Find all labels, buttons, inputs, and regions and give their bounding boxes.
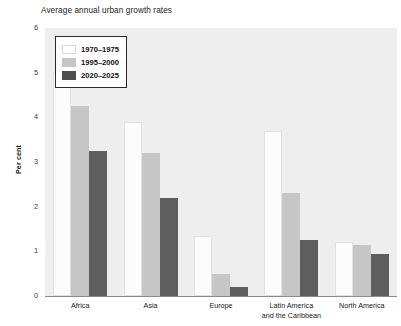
bar-1-0 — [124, 122, 142, 296]
bar-1-1 — [142, 153, 160, 296]
x-label-1: Asia — [115, 301, 185, 311]
x-label-0-line-0: Africa — [45, 301, 115, 311]
legend-entry-1: 1995–2000 — [62, 56, 119, 68]
legend-label-1: 1995–2000 — [81, 58, 119, 67]
bar-4-2 — [371, 254, 389, 296]
y-axis-tick-labels: 0123456 — [10, 0, 38, 326]
legend-label-0: 1970–1975 — [81, 45, 119, 54]
chart-title: Average annual urban growth rates — [41, 6, 172, 15]
chart-figure: Average annual urban growth rates Per ce… — [0, 0, 401, 326]
series-0-swatch — [62, 45, 76, 54]
chart-legend: 1970–19751995–20002020–2025 — [55, 36, 127, 88]
x-label-3-line-1: and the Caribbean — [256, 311, 326, 321]
bar-4-1 — [353, 245, 371, 296]
y-tick-1: 1 — [20, 246, 38, 255]
x-label-0: Africa — [45, 301, 115, 311]
x-label-4-line-0: North America — [327, 301, 397, 311]
bar-4-0 — [335, 242, 353, 296]
bar-3-2 — [300, 240, 318, 296]
x-label-1-line-0: Asia — [115, 301, 185, 311]
x-axis-line — [45, 296, 397, 297]
y-tick-5: 5 — [20, 68, 38, 77]
x-label-3: Latin Americaand the Caribbean — [256, 301, 326, 320]
series-2-swatch — [62, 71, 76, 80]
series-1-swatch — [62, 58, 76, 67]
bar-0-0 — [53, 73, 71, 296]
bar-2-1 — [212, 274, 230, 296]
x-label-2: Europe — [186, 301, 256, 311]
y-tick-0: 0 — [20, 291, 38, 300]
legend-label-2: 2020–2025 — [81, 71, 119, 80]
bar-1-2 — [160, 198, 178, 296]
bar-2-0 — [194, 236, 212, 296]
bar-3-0 — [264, 131, 282, 296]
bar-3-1 — [282, 193, 300, 296]
y-tick-3: 3 — [20, 157, 38, 166]
bar-0-2 — [89, 151, 107, 296]
x-label-2-line-0: Europe — [186, 301, 256, 311]
y-tick-6: 6 — [20, 23, 38, 32]
x-label-3-line-0: Latin America — [256, 301, 326, 311]
legend-entry-2: 2020–2025 — [62, 69, 119, 81]
bar-2-2 — [230, 287, 248, 296]
y-tick-2: 2 — [20, 202, 38, 211]
bar-0-1 — [71, 106, 89, 296]
legend-entry-0: 1970–1975 — [62, 43, 119, 55]
y-tick-4: 4 — [20, 112, 38, 121]
x-label-4: North America — [327, 301, 397, 311]
